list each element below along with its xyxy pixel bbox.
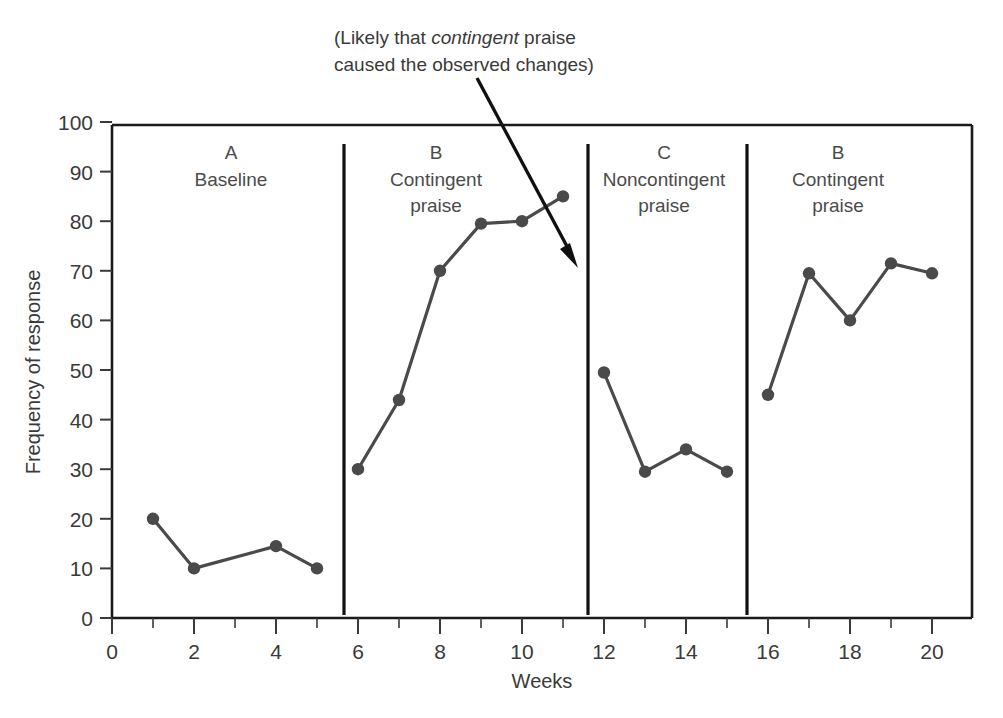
x-tick-label: 12 [592, 640, 615, 663]
x-tick-label: 2 [188, 640, 200, 663]
phase-name-a: Baseline [195, 169, 268, 190]
phase-labels: A Baseline B Contingent praise C Noncont… [195, 142, 885, 216]
phase-name-c-line2: praise [638, 195, 690, 216]
data-point [270, 540, 282, 552]
y-axis-title: Frequency of response [22, 270, 44, 475]
data-point [803, 267, 815, 279]
y-axis-tick-labels: 100 90 80 70 60 50 40 30 20 10 0 [58, 111, 93, 630]
series-line [768, 263, 932, 394]
x-tick-label: 10 [510, 640, 533, 663]
x-tick-label: 6 [352, 640, 364, 663]
series-c-noncontingent [598, 366, 733, 478]
y-tick-label: 0 [81, 607, 93, 630]
x-tick-label: 18 [838, 640, 861, 663]
single-subject-design-chart: 100 90 80 70 60 50 40 30 20 10 0 Frequen… [0, 0, 1003, 718]
annotation-line-1: (Likely that contingent praise [334, 27, 576, 48]
data-point [516, 215, 528, 227]
x-tick-label: 16 [756, 640, 779, 663]
y-tick-label: 10 [70, 557, 93, 580]
y-tick-label: 100 [58, 111, 93, 134]
y-tick-label: 50 [70, 359, 93, 382]
series-a-baseline [147, 513, 323, 575]
phase-name-b2-line1: Contingent [792, 169, 885, 190]
data-point [188, 562, 200, 574]
annotation-line1-post: praise [519, 27, 576, 48]
y-tick-label: 40 [70, 409, 93, 432]
y-tick-label: 60 [70, 309, 93, 332]
phase-letter-b2: B [832, 142, 845, 163]
chart-page: 100 90 80 70 60 50 40 30 20 10 0 Frequen… [0, 0, 1003, 718]
data-point [680, 443, 692, 455]
annotation-line1-pre: (Likely that [334, 27, 431, 48]
y-tick-label: 20 [70, 508, 93, 531]
x-tick-label: 8 [434, 640, 446, 663]
series-line [358, 196, 563, 469]
phase-name-b2-line2: praise [812, 195, 864, 216]
phase-name-c-line1: Noncontingent [603, 169, 726, 190]
annotation-line1-emphasis: contingent [431, 27, 519, 48]
x-tick-label: 14 [674, 640, 698, 663]
y-tick-label: 30 [70, 458, 93, 481]
x-tick-label: 0 [106, 640, 118, 663]
data-point [434, 265, 446, 277]
series-b-contingent-second [762, 257, 938, 401]
data-point [311, 562, 323, 574]
y-axis-ticks [100, 122, 112, 618]
x-axis-title: Weeks [512, 670, 573, 692]
data-point [475, 217, 487, 229]
y-tick-label: 70 [70, 260, 93, 283]
series-b-contingent-first [352, 190, 569, 475]
data-point [393, 394, 405, 406]
x-axis-tick-labels: 0 2 4 6 8 10 12 14 16 18 20 [106, 640, 944, 663]
annotation-arrow [477, 78, 578, 268]
phase-letter-c: C [657, 142, 671, 163]
x-tick-label: 4 [270, 640, 282, 663]
data-point [639, 466, 651, 478]
series-line [153, 519, 317, 569]
annotation-line-2: caused the observed changes) [334, 54, 594, 75]
series-line [604, 373, 727, 472]
data-point [557, 190, 569, 202]
x-tick-label: 20 [920, 640, 943, 663]
data-point [352, 463, 364, 475]
phase-letter-b1: B [430, 142, 443, 163]
phase-letter-a: A [225, 142, 238, 163]
data-point [598, 366, 610, 378]
y-tick-label: 90 [70, 161, 93, 184]
data-point [885, 257, 897, 269]
data-point [926, 267, 938, 279]
phase-name-b1-line1: Contingent [390, 169, 483, 190]
data-point [721, 466, 733, 478]
y-tick-label: 80 [70, 210, 93, 233]
data-point [844, 314, 856, 326]
phase-name-b1-line2: praise [410, 195, 462, 216]
data-point [147, 513, 159, 525]
data-point [762, 389, 774, 401]
